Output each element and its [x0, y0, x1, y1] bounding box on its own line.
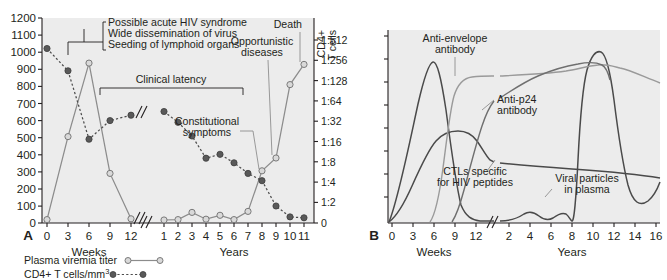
panel-a-xtick-y6: 6 — [231, 230, 237, 242]
panel-b-label-ctl-2: for HIV peptides — [437, 176, 513, 188]
panel-a-xtick-y1: 1 — [161, 230, 167, 242]
panel-a-annotation-constitutional-2: symptoms — [183, 126, 231, 138]
panel-b-x-ticks-weeks — [392, 223, 476, 227]
panel-a-ytick-1200: 1200 — [10, 12, 36, 24]
panel-b-xtick-w12: 12 — [470, 230, 483, 242]
panel-a-annotation-opportunistic-2: diseases — [241, 46, 283, 58]
panel-a-xtick-w9: 9 — [107, 230, 113, 242]
panel-a-xtick-w0: 0 — [44, 230, 50, 242]
panel-a-rtick-8: 1:8 — [321, 156, 336, 168]
panel-a-rtick-16: 1:16 — [321, 136, 342, 148]
panel-b-xtick-y16: 16 — [650, 230, 663, 242]
panel-b-xtick-y12: 12 — [608, 230, 621, 242]
panel-b-label: B — [369, 228, 379, 243]
panel-a-ytick-1000: 1000 — [10, 46, 36, 58]
legend-marker-cd4 — [110, 272, 146, 278]
panel-b: 0 3 6 9 12 2 4 6 8 10 12 14 16 Weeks Yea… — [369, 30, 662, 258]
panel-a-ytick-200: 200 — [17, 183, 36, 195]
panel-a-ytick-700: 700 — [17, 98, 36, 110]
panel-a-xtick-y11: 11 — [298, 230, 310, 242]
panel-a-rtick-32: 1:32 — [321, 115, 342, 127]
panel-b-xtick-y4: 4 — [527, 230, 534, 242]
panel-a-ytick-1100: 1100 — [11, 29, 36, 41]
panel-a-rtick-64: 1:64 — [321, 95, 342, 107]
panel-a-rtick-4: 1:4 — [321, 176, 336, 188]
panel-a-label: A — [23, 228, 33, 243]
panel-a-annotation-latency: Clinical latency — [136, 73, 207, 85]
panel-b-x-ticks-years — [509, 223, 656, 227]
panel-a-xtick-y10: 10 — [284, 230, 297, 242]
panel-b-label-viral-2: in plasma — [564, 183, 609, 195]
panel-a-xtick-y4: 4 — [203, 230, 210, 242]
panel-a-x-ticks-weeks — [47, 223, 131, 227]
panel-a-rtick-128: 1:128 — [321, 75, 348, 87]
panel-b-xtick-y14: 14 — [629, 230, 642, 242]
figure-svg: 1200 1100 1000 900 800 700 600 500 400 3… — [0, 0, 667, 280]
panel-b-label-anti-envelope-2: antibody — [435, 43, 476, 55]
panel-a-xtick-y5: 5 — [217, 230, 223, 242]
panel-b-xtick-w9: 9 — [452, 230, 458, 242]
panel-b-xtick-w0: 0 — [389, 230, 395, 242]
panel-a-left-ticks — [38, 18, 42, 223]
panel-a-xtick-w6: 6 — [86, 230, 92, 242]
panel-a-xtick-y8: 8 — [259, 230, 265, 242]
hiv-natural-history-figure: 1200 1100 1000 900 800 700 600 500 400 3… — [0, 0, 667, 280]
panel-b-xtick-w6: 6 — [431, 230, 437, 242]
panel-a-xtick-y2: 2 — [175, 230, 181, 242]
panel-b-xlabel-years: Years — [558, 246, 587, 258]
panel-a: 1200 1100 1000 900 800 700 600 500 400 3… — [10, 12, 347, 258]
panel-a-legend: Plasma viremia titer CD4+ T cells/mm3 — [24, 254, 163, 280]
panel-a-xtick-w3: 3 — [65, 230, 71, 242]
panel-b-xlabel-weeks: Weeks — [417, 246, 452, 258]
panel-a-xtick-w12: 12 — [125, 230, 138, 242]
panel-a-ytick-600: 600 — [17, 115, 36, 127]
panel-a-xlabel-years: Years — [220, 246, 249, 258]
legend-label-viremia: Plasma viremia titer — [24, 254, 117, 266]
panel-b-xtick-w3: 3 — [410, 230, 416, 242]
panel-a-ytick-100: 100 — [17, 200, 36, 212]
panel-a-xtick-y3: 3 — [189, 230, 195, 242]
panel-a-annotation-death: Death — [274, 18, 302, 30]
panel-b-xtick-y10: 10 — [587, 230, 600, 242]
panel-a-xtick-y7: 7 — [245, 230, 251, 242]
panel-a-annotation-acute-3: Seeding of lymphoid organs — [108, 38, 239, 50]
panel-a-rtick-0: 0 — [321, 217, 327, 229]
legend-label-cd4: CD4+ T cells/mm3 — [24, 267, 109, 280]
legend-marker-viremia — [125, 258, 163, 264]
panel-a-ytick-300: 300 — [17, 166, 36, 178]
panel-b-xtick-y2: 2 — [506, 230, 512, 242]
panel-a-ytick-900: 900 — [17, 63, 36, 75]
panel-a-ytick-400: 400 — [17, 149, 36, 161]
panel-a-right-axis-title-line2: T cells — [326, 30, 338, 60]
panel-b-plot-background — [388, 30, 660, 223]
panel-b-xtick-y6: 6 — [548, 230, 554, 242]
panel-a-x-ticks-years — [164, 223, 304, 227]
panel-a-rtick-2: 1:2 — [321, 196, 336, 208]
panel-a-ytick-500: 500 — [17, 132, 36, 144]
panel-b-xtick-y8: 8 — [569, 230, 575, 242]
panel-a-right-ticks — [314, 40, 318, 223]
panel-b-y-ticks — [384, 36, 388, 197]
panel-a-ytick-800: 800 — [17, 80, 36, 92]
panel-a-xtick-y9: 9 — [273, 230, 279, 242]
panel-b-label-anti-p24-2: antibody — [497, 104, 538, 116]
